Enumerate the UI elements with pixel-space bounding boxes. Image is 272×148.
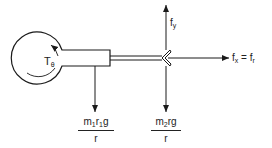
left-load-numerator: m1r1g — [78, 117, 114, 131]
fy-label: fy — [170, 18, 176, 29]
torque-label: Tθ — [44, 56, 55, 68]
torque-label-base: T — [44, 55, 51, 67]
torque-label-sub: θ — [51, 61, 55, 68]
rg-symbol: rg — [168, 116, 177, 127]
m1-base: m — [83, 116, 91, 127]
torque-arc-upper — [51, 45, 58, 56]
fx-sub: x — [235, 57, 239, 64]
torque-arc-icon — [27, 68, 55, 77]
right-load-denominator: r — [151, 131, 181, 144]
left-load-denominator: r — [78, 131, 114, 144]
fx-equation-label: fx = fr — [232, 53, 255, 64]
diagram-canvas — [0, 0, 272, 148]
fy-label-sub: y — [173, 22, 177, 29]
fx-equals: = — [241, 52, 247, 63]
m2-base: m — [155, 116, 163, 127]
g-symbol: g — [103, 116, 109, 127]
right-load-label: m2rg r — [151, 117, 181, 144]
left-load-label: m1r1g r — [78, 117, 114, 144]
right-load-numerator: m2rg — [151, 117, 181, 131]
fr-sub: r — [252, 57, 254, 64]
